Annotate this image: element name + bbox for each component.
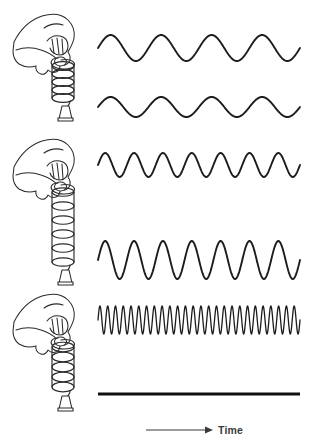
waveform-wave-5 <box>98 306 300 334</box>
time-axis-arrowhead <box>205 427 213 434</box>
spring-coil-long <box>51 338 74 398</box>
waveform-group <box>98 35 300 394</box>
figure-canvas <box>0 0 310 448</box>
spring-weight-bell-2 <box>58 270 73 285</box>
time-axis <box>146 427 213 434</box>
waveform-wave-4 <box>98 241 300 279</box>
illustration-hand-spring-short <box>13 14 74 121</box>
spring-weight-bell-3 <box>58 396 73 411</box>
waveform-wave-2 <box>98 97 300 117</box>
illustration-hand-spring-long <box>13 294 74 411</box>
time-axis-label: Time <box>218 424 243 436</box>
spring-weight-bell-1 <box>58 106 73 121</box>
waveform-wave-3 <box>98 153 300 177</box>
waveform-wave-1 <box>98 35 300 61</box>
illustration-hand-spring-medium <box>13 139 74 285</box>
spring-waveform-figure: Time <box>0 0 310 448</box>
